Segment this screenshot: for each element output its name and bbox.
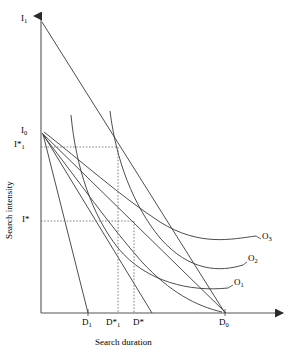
leader-o1 xyxy=(228,285,233,288)
x-axis-title: Search duration xyxy=(95,337,152,347)
curve-label-o2: O2 xyxy=(248,254,258,263)
y-tick-label-i0: I0 xyxy=(21,126,27,135)
x-tick-label-d0: D0 xyxy=(219,318,229,327)
offer-curve-o1 xyxy=(71,115,228,289)
x-tick-label-dstar: D* xyxy=(133,318,144,327)
y-tick-label-istar1: I*1 xyxy=(14,140,25,149)
x-tick-label-d1: D1 xyxy=(82,318,92,327)
curve-label-o1: O1 xyxy=(234,278,244,287)
curve-label-o3: O3 xyxy=(262,232,272,241)
economics-diagram: I1 I0 I*1 I* D1 D*1 D* D0 O1 O2 O3 Searc… xyxy=(0,0,295,356)
plot-canvas xyxy=(0,0,295,356)
leader-o2 xyxy=(243,262,247,265)
y-tick-label-i1: I1 xyxy=(21,14,27,23)
x-tick-label-dstar1: D*1 xyxy=(106,318,120,327)
leader-o3 xyxy=(256,236,261,239)
budget-line-i1-d0 xyxy=(42,22,225,313)
budget-line-i0-mid xyxy=(43,134,152,313)
y-tick-label-istar: I* xyxy=(22,215,30,224)
y-axis-title: Search intensity xyxy=(4,170,14,250)
budget-line-i0-steep-d1 xyxy=(43,134,88,313)
indifference-curve-lower xyxy=(43,135,222,312)
offer-curve-o2 xyxy=(110,111,243,269)
